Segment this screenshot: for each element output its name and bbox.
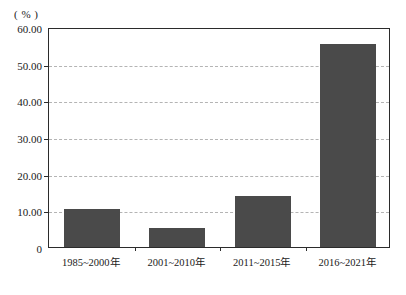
y-axis-tick: [44, 176, 49, 177]
y-axis-tick: [44, 139, 49, 140]
y-axis-label: 60.00: [17, 23, 42, 35]
y-axis-label: 50.00: [17, 60, 42, 72]
y-axis-unit-label: ( % ): [14, 8, 39, 20]
x-axis-category-label: 2001~2010年: [147, 254, 205, 269]
y-axis-tick: [44, 212, 49, 213]
bar: [320, 44, 376, 248]
bar: [235, 196, 291, 247]
bar: [149, 228, 205, 247]
y-axis-label: 20.00: [17, 170, 42, 182]
y-axis-tick: [44, 66, 49, 67]
bar: [64, 209, 120, 247]
x-axis-tick: [220, 247, 221, 251]
x-axis-category-label: 2011~2015年: [233, 254, 290, 269]
y-axis-label: 10.00: [17, 206, 42, 218]
y-axis-label: 0: [37, 243, 43, 255]
x-axis-tick: [135, 247, 136, 251]
x-axis-category-label: 1985~2000年: [62, 254, 120, 269]
plot-area: 010.0020.0030.0040.0050.0060.00: [48, 28, 390, 248]
x-axis-category-label: 2016~2021年: [318, 254, 376, 269]
y-axis-label: 30.00: [17, 133, 42, 145]
x-axis-tick: [306, 247, 307, 251]
y-axis-label: 40.00: [17, 96, 42, 108]
y-axis-tick: [44, 102, 49, 103]
bar-chart: ( % ) 010.0020.0030.0040.0050.0060.00 19…: [0, 0, 406, 295]
